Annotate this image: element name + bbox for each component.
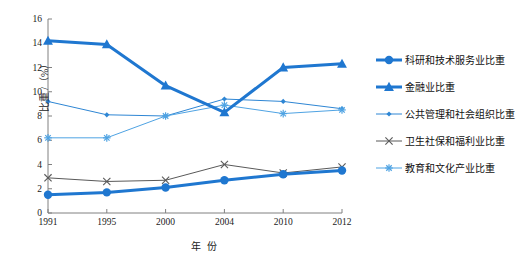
data-point-circle bbox=[44, 191, 52, 199]
legend-marker-icon bbox=[376, 134, 402, 148]
y-tick-label: 4 bbox=[20, 160, 42, 170]
legend-marker-icon bbox=[376, 53, 402, 67]
series-line bbox=[48, 41, 342, 113]
y-tick-label: 8 bbox=[20, 111, 42, 121]
legend-key-asterisk-icon bbox=[376, 161, 402, 175]
data-point-circle bbox=[220, 176, 228, 184]
series-line bbox=[48, 99, 342, 116]
x-tick-label: 1991 bbox=[28, 217, 68, 227]
y-tick-label: 14 bbox=[20, 38, 42, 48]
x-tick-label: 2010 bbox=[263, 217, 303, 227]
x-axis-title: 年 份 bbox=[60, 238, 350, 253]
legend-item[interactable]: 卫生社保和福利业比重 bbox=[376, 127, 520, 154]
legend-key-triangle-icon bbox=[376, 80, 402, 94]
y-tick-label: 12 bbox=[20, 63, 42, 73]
y-tick-label: 2 bbox=[20, 184, 42, 194]
data-point-circle bbox=[385, 55, 393, 63]
x-tick-label: 2000 bbox=[146, 217, 186, 227]
legend-label: 卫生社保和福利业比重 bbox=[405, 133, 505, 148]
legend-marker-icon bbox=[376, 161, 402, 175]
chart-legend: 科研和技术服务业比重金融业比重公共管理和社会组织比重卫生社保和福利业比重教育和文… bbox=[376, 46, 520, 181]
legend-label: 科研和技术服务业比重 bbox=[405, 52, 505, 67]
legend-label: 公共管理和社会组织比重 bbox=[405, 106, 515, 121]
y-tick-label: 10 bbox=[20, 87, 42, 97]
legend-item[interactable]: 金融业比重 bbox=[376, 73, 520, 100]
legend-label: 教育和文化产业比重 bbox=[405, 160, 495, 175]
legend-item[interactable]: 科研和技术服务业比重 bbox=[376, 46, 520, 73]
legend-item[interactable]: 教育和文化产业比重 bbox=[376, 154, 520, 181]
legend-label: 金融业比重 bbox=[405, 79, 455, 94]
data-point-circle bbox=[161, 183, 169, 191]
series-line bbox=[48, 105, 342, 138]
legend-key-x-cross-icon bbox=[376, 134, 402, 148]
legend-item[interactable]: 公共管理和社会组织比重 bbox=[376, 100, 520, 127]
x-tick-label: 2012 bbox=[322, 217, 362, 227]
legend-marker-icon bbox=[376, 80, 402, 94]
data-point-diamond bbox=[386, 111, 391, 116]
y-tick-label: 6 bbox=[20, 135, 42, 145]
data-point-diamond bbox=[281, 99, 286, 104]
x-tick-label: 1995 bbox=[87, 217, 127, 227]
data-point-diamond bbox=[222, 96, 227, 101]
line-chart: 比重 /（%） 年 份 1614121086420 19911995200020… bbox=[0, 0, 520, 263]
legend-marker-icon bbox=[376, 107, 402, 121]
data-point-diamond bbox=[104, 112, 109, 117]
y-tick-label: 16 bbox=[20, 14, 42, 24]
legend-key-small-diamond-icon bbox=[376, 107, 402, 121]
data-point-circle bbox=[103, 188, 111, 196]
data-point-circle bbox=[279, 170, 287, 178]
series-line bbox=[48, 171, 342, 195]
data-point-circle bbox=[338, 166, 346, 174]
legend-key-circle-icon bbox=[376, 53, 402, 67]
x-tick-label: 2004 bbox=[204, 217, 244, 227]
